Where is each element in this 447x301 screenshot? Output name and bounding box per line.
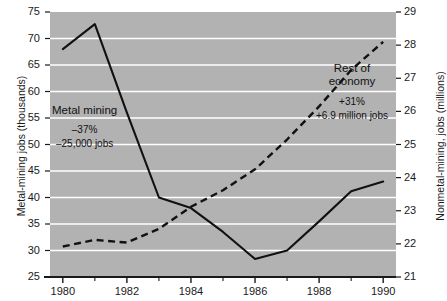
- annotation-rest-of-economy-title-line2: economy: [300, 75, 404, 88]
- right-axis-tick-label: 25: [404, 139, 430, 150]
- annotation-rest-of-economy-title-line1: Rest of: [300, 62, 404, 75]
- annotation-rest-of-economy: Rest of economy +31% +6.9 million jobs: [300, 62, 404, 121]
- left-axis-tick-label: 55: [14, 112, 40, 123]
- right-axis-tick-label: 29: [404, 6, 430, 17]
- chart-container: Metal-mining jobs (thousands) Nonmetal-m…: [0, 0, 447, 301]
- left-axis-tick-label: 75: [14, 6, 40, 17]
- annotation-rest-of-economy-pct: +31%: [300, 96, 404, 108]
- right-axis-tick-label: 22: [404, 238, 430, 249]
- left-axis-tick-label: 40: [14, 192, 40, 203]
- left-axis-tick-label: 30: [14, 245, 40, 256]
- annotation-metal-mining: Metal mining –37% –25,000 jobs: [52, 104, 117, 149]
- left-axis-tick-label: 25: [14, 271, 40, 282]
- x-axis-tick-label: 1988: [297, 286, 341, 297]
- left-axis-tick-label: 65: [14, 59, 40, 70]
- right-axis-title: Nonmetal-mining, jobs (millions): [434, 46, 446, 246]
- right-axis-tick-label: 27: [404, 72, 430, 83]
- right-axis-tick-label: 24: [404, 172, 430, 183]
- annotation-rest-of-economy-jobs: +6.9 million jobs: [300, 110, 404, 122]
- left-axis-tick-label: 35: [14, 218, 40, 229]
- annotation-metal-mining-pct: –37%: [52, 124, 117, 136]
- x-axis-tick-label: 1980: [41, 286, 85, 297]
- left-axis-tick-label: 60: [14, 86, 40, 97]
- right-axis-tick-label: 28: [404, 39, 430, 50]
- x-axis-tick-label: 1986: [233, 286, 277, 297]
- annotation-metal-mining-jobs: –25,000 jobs: [52, 138, 117, 150]
- left-axis-tick-label: 45: [14, 165, 40, 176]
- right-axis-tick-label: 21: [404, 271, 430, 282]
- left-axis-tick-label: 50: [14, 139, 40, 150]
- annotation-metal-mining-title: Metal mining: [52, 104, 117, 117]
- right-axis-tick-label: 23: [404, 205, 430, 216]
- left-axis-tick-label: 70: [14, 33, 40, 44]
- x-axis-tick-label: 1990: [361, 286, 405, 297]
- chart-plot-area: [0, 0, 447, 301]
- right-axis-tick-label: 26: [404, 105, 430, 116]
- x-axis-tick-label: 1982: [105, 286, 149, 297]
- x-axis-tick-label: 1984: [169, 286, 213, 297]
